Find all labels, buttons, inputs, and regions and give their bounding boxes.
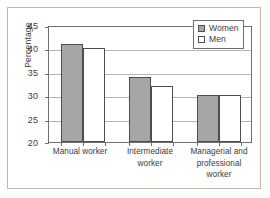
y-tick-label: 40	[28, 45, 38, 54]
y-tick-label: 35	[28, 68, 38, 77]
y-tick-mark	[45, 121, 49, 122]
chart-figure: Percentage 45 40 35 30 25 20	[0, 0, 270, 198]
x-category-line: worker	[178, 169, 260, 181]
legend-label-men: Men	[209, 35, 226, 44]
x-category-label-manual-worker: Manual worker	[40, 146, 120, 158]
y-tick-label: 45	[28, 22, 38, 31]
x-category-line: Managerial and	[178, 146, 260, 158]
legend-swatch-women-icon	[198, 25, 205, 32]
x-category-label-managerial-and-professional-worker: Managerial and professional worker	[178, 146, 260, 181]
y-tick-mark	[45, 143, 49, 144]
y-tick-mark	[45, 97, 49, 98]
legend-item-men: Men	[198, 34, 238, 45]
y-tick-label: 20	[28, 139, 38, 148]
y-tick-mark	[45, 74, 49, 75]
legend-swatch-men-icon	[198, 36, 205, 43]
y-tick-mark	[45, 50, 49, 51]
legend-label-women: Women	[209, 24, 238, 33]
bar-men-intermediate-worker	[151, 86, 173, 142]
y-tick-label: 25	[28, 115, 38, 124]
x-category-line: professional	[178, 158, 260, 170]
x-axis: Manual worker Intermediate worker Manage…	[48, 146, 252, 192]
bar-women-managerial-and-professional-worker	[197, 95, 219, 142]
bar-women-manual-worker	[61, 44, 83, 142]
bar-men-managerial-and-professional-worker	[219, 95, 241, 142]
y-tick-label: 30	[28, 92, 38, 101]
y-axis: 45 40 35 30 25 20	[0, 26, 44, 143]
y-tick-mark	[45, 27, 49, 28]
legend: Women Men	[193, 20, 244, 49]
legend-item-women: Women	[198, 23, 238, 34]
x-category-line: Manual worker	[40, 146, 120, 158]
bar-men-manual-worker	[83, 48, 105, 142]
bar-women-intermediate-worker	[129, 77, 151, 143]
